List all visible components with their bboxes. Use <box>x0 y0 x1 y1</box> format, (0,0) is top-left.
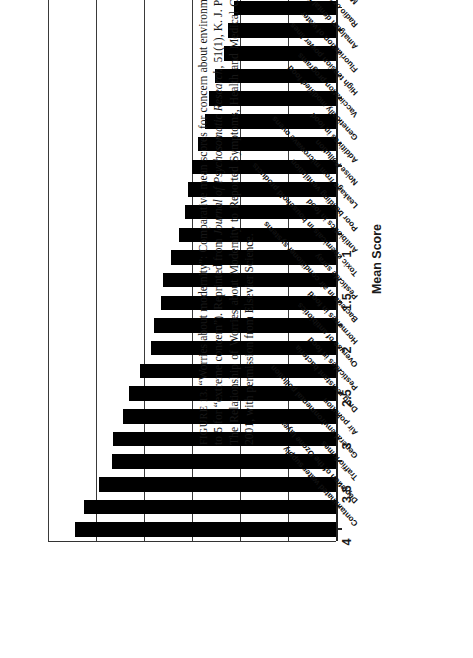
value-axis-title: Mean Score <box>370 0 384 542</box>
caption-rotation-wrapper: FIGURE 13. “Worries about modernity”: Co… <box>196 0 278 445</box>
bar <box>84 500 336 515</box>
gridline <box>48 0 49 541</box>
gridline <box>96 0 97 541</box>
figure-number: FIGURE 13. <box>198 389 209 445</box>
caption-journal-title: Journal of Psychosomatic Research, <box>212 66 225 236</box>
value-axis-tick-label: 4 <box>340 538 354 545</box>
figure-page: 11.522.533.54 Mean Score Contaminated wa… <box>0 0 473 658</box>
bar <box>75 522 336 537</box>
figure-caption: FIGURE 13. “Worries about modernity”: Co… <box>196 0 257 445</box>
bar <box>99 477 336 492</box>
